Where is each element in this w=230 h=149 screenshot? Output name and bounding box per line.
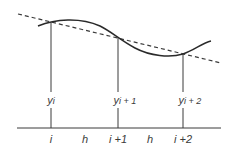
y-label-subscript: i	[53, 96, 55, 106]
x-label-i: i	[50, 134, 52, 145]
x-label-i-plus-2: i +2	[174, 134, 192, 145]
function-curve	[38, 20, 211, 56]
x-label-i-plus-1: i +1	[109, 134, 127, 145]
y-label-subscript: i + 2	[184, 96, 201, 106]
y-label-i: yi	[47, 95, 55, 106]
spacing-label-h-1: h	[82, 134, 88, 145]
y-label-i-plus-1: yi + 1	[114, 95, 137, 106]
diagram-canvas	[0, 0, 230, 149]
spacing-label-h-2: h	[147, 134, 153, 145]
y-label-subscript: i + 1	[119, 96, 136, 106]
y-label-i-plus-2: yi + 2	[179, 95, 202, 106]
